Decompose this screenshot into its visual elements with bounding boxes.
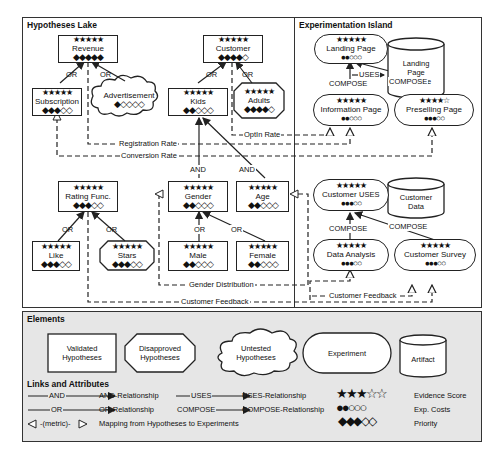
legend-and-desc: AND-Relationship [99, 391, 159, 400]
legend-validated-hypotheses: Validated Hypotheses [48, 334, 116, 372]
evidence-stars: ★★★★★ [336, 242, 365, 250]
metric-optin-rate: OptIn Rate [243, 130, 281, 139]
legend-untested-hypotheses: Untested Hypotheses [220, 334, 292, 372]
artifact-label: Data [408, 202, 424, 211]
edge-label-or: OR [206, 70, 217, 79]
node-like[interactable]: ★★★★★ Like ◆◆◆◇◇ [32, 241, 80, 271]
priority-label: Priority [414, 419, 437, 428]
experiment-data-analysis[interactable]: ★★★★★ Data Analysis ●●●○○ [313, 239, 389, 271]
priority-diamonds: ◆◆◇◇◇ [183, 201, 213, 210]
legend-label: Experiment [328, 349, 366, 358]
metric-customer-feedback: Customer Feedback [180, 297, 250, 306]
priority-diamonds: ◆◆◇◇◇ [183, 260, 213, 269]
legend-label: Disapproved [139, 344, 181, 353]
node-female[interactable]: ★★★★★ Female ◆◆◇◇◇ [236, 241, 289, 271]
priority-diamonds: ◆◆◆◆◇ [218, 53, 248, 62]
edge-label-or: OR [106, 225, 117, 234]
priority-diamonds: ◆◆◆◇◇ [42, 106, 72, 115]
experiment-preselling-page[interactable]: ★★★★☆ Preselling Page ●●●○○ [394, 94, 474, 126]
priority-diamonds: ◆◆◇◇◇ [183, 106, 213, 115]
metric-registration-rate: Registration Rate [118, 139, 178, 148]
experiment-landing-page[interactable]: ★★★★★ Landing Page ●●○○○ [314, 34, 388, 64]
legend-label: Artifact [411, 355, 434, 364]
node-male[interactable]: ★★★★★ Male ◆◆◇◇◇ [168, 241, 228, 271]
evidence-stars: ★★★★★ [42, 89, 71, 97]
evidence-stars: ★★★★★ [248, 243, 277, 251]
legend-uses-tag: USES [190, 391, 212, 400]
priority-diamonds: ◆◆◇◇◇ [248, 201, 278, 210]
evidence-stars: ★★★★★ [336, 182, 365, 190]
artifact-label: Landing [403, 59, 430, 68]
exp-costs: ●●●○○ [341, 259, 362, 268]
exp-costs: ●●●○○ [425, 259, 446, 268]
edge-label-uses: USES [358, 70, 380, 79]
evidence-stars: ★★★★★ [41, 243, 70, 251]
edge-label-and: AND [189, 165, 207, 174]
exp-costs: ●●○○○ [341, 114, 362, 123]
edge-label-compose: COMPOSE [328, 79, 368, 88]
node-adults[interactable]: ★★★★★ Adults ◆◆◆◆◇ [236, 86, 282, 116]
priority-diamonds: ◆◆◆◇◇ [73, 201, 103, 210]
evidence-stars: ★★★★★ [420, 242, 449, 250]
priority-diamonds: ◆◆◆◆◆ [73, 53, 103, 62]
edge-label-or: OR [66, 70, 77, 79]
legend-experiment: Experiment [303, 333, 391, 373]
legend-label: Validated [67, 344, 98, 353]
exp-costs-label: Exp. Costs [414, 405, 450, 414]
legend-or-desc: OR-Relationship [99, 405, 154, 414]
evidence-stars: ★★★★★ [112, 243, 141, 251]
evidence-stars: ★★★★★ [73, 184, 102, 192]
artifact-landing-page-template[interactable]: Landing Page Template [388, 52, 444, 92]
priority-diamonds: ◆◆◆◇◇ [41, 260, 71, 269]
node-stars[interactable]: ★★★★★ Stars ◆◆◆◇◇ [104, 242, 150, 269]
priority-diamonds: ◆◇◇◇◇ [114, 100, 144, 109]
legend-or-tag: OR [50, 405, 63, 414]
evidence-score-symbols: ★★★☆☆ [336, 386, 386, 401]
evidence-stars: ★★★★★ [218, 36, 247, 44]
evidence-stars: ★★★★★ [248, 184, 277, 192]
edge-label-or: OR [230, 225, 243, 234]
exp-costs: ●●●○○ [341, 199, 362, 208]
evidence-stars: ★★★★☆ [419, 97, 448, 105]
metric-customer-feedback: Customer Feedback [328, 291, 398, 300]
node-gender[interactable]: ★★★★★ Gender ◆◆◇◇◇ [168, 181, 228, 212]
legend-metric-desc: Mapping from Hypotheses to Experiments [99, 419, 239, 428]
node-kids[interactable]: ★★★★★ Kids ◆◆◇◇◇ [168, 88, 228, 116]
artifact-label: Customer [400, 193, 433, 202]
edge-label-uses: USES [358, 190, 380, 199]
legend-label: Hypotheses [140, 353, 180, 362]
node-subscription[interactable]: ★★★★★ Subscription ◆◆◆◇◇ [32, 88, 82, 116]
exp-costs-symbols: ●●○○○ [336, 400, 365, 415]
priority-diamonds: ◆◆◇◇◇ [248, 260, 278, 269]
node-revenue[interactable]: ★★★★★ Revenue ◆◆◆◆◆ [58, 35, 118, 63]
legend-label: Hypotheses [236, 353, 276, 362]
edge-label-compose: COMPOSE [388, 77, 428, 86]
evidence-stars: ★★★★★ [183, 184, 212, 192]
priority-diamonds: ◆◆◆◇◇ [112, 260, 142, 269]
metric-conversion-rate: Conversion Rate [120, 151, 178, 160]
experiment-customer-survey[interactable]: ★★★★★ Customer Survey ●●●○○ [394, 239, 476, 271]
node-advertisement[interactable]: Advertisement ◆◇◇◇◇ [98, 88, 160, 112]
node-rating-func[interactable]: ★★★★★ Rating Func. ◆◆◆◇◇ [58, 181, 118, 212]
evidence-stars: ★★★★★ [183, 243, 212, 251]
evidence-stars: ★★★★★ [73, 36, 102, 44]
edge-label-and: AND [238, 165, 256, 174]
node-age[interactable]: ★★★★★ Age ◆◆◇◇◇ [236, 181, 289, 212]
legend-compose-tag: COMPOSE [176, 405, 216, 414]
legend-compose-desc: COMPOSE-Relationship [242, 405, 324, 414]
edge-label-or: OR [242, 70, 253, 79]
legend-metric-tag: -(metric)- [40, 419, 70, 428]
evidence-stars: ★★★★★ [336, 97, 365, 105]
edge-label-compose: COMPOSE [328, 224, 368, 233]
exp-costs: ●●○○○ [341, 53, 362, 62]
artifact-label: Page [407, 68, 425, 77]
evidence-stars: ★★★★★ [183, 89, 212, 97]
experiment-information-page[interactable]: ★★★★★ Information Page ●●○○○ [313, 94, 389, 126]
legend-label: Hypotheses [62, 353, 102, 362]
artifact-customer-data[interactable]: Customer Data [388, 190, 444, 214]
priority-diamonds: ◆◆◆◆◇ [244, 105, 274, 114]
node-customer[interactable]: ★★★★★ Customer ◆◆◆◆◇ [203, 35, 263, 63]
edge-label-or: OR [193, 225, 206, 234]
legend-artifact: Artifact [400, 345, 446, 373]
legend-and-tag: AND [48, 391, 66, 400]
